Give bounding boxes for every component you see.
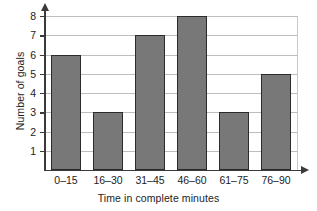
y-axis-tick [40,151,46,152]
y-axis-tick-label: 5 [10,69,36,79]
bar-chart: Number of goals Time in complete minutes… [0,0,317,211]
y-axis-tick [40,93,46,94]
y-axis-tick [40,16,46,17]
gridline [45,112,297,113]
bar [219,112,249,170]
y-axis-arrow-icon [41,3,49,11]
x-axis-tick-label: 31–45 [129,174,171,186]
bar [261,74,291,170]
y-axis-tick [40,112,46,113]
bar [51,55,81,171]
x-axis-line [44,170,303,172]
y-axis-tick-label: 7 [10,30,36,40]
y-axis-tick-label: 8 [10,11,36,21]
y-axis-tick [40,132,46,133]
y-axis-tick [40,35,46,36]
bar [135,35,165,170]
gridline [45,151,297,152]
x-axis-tick-label: 0–15 [45,174,87,186]
y-axis-tick-label: 3 [10,107,36,117]
plot-area [45,16,298,170]
gridline [45,74,297,75]
bar [93,112,123,170]
x-axis-tick-label: 46–60 [171,174,213,186]
y-axis-tick [40,74,46,75]
bar [177,16,207,170]
x-axis-tick-label: 61–75 [213,174,255,186]
x-axis-title: Time in complete minutes [0,192,317,204]
gridline [45,132,297,133]
y-axis-tick-label: 1 [10,146,36,156]
gridline [45,16,297,17]
x-axis-tick-label: 16–30 [87,174,129,186]
y-axis-line [44,10,46,171]
y-axis-tick [40,55,46,56]
gridline [45,55,297,56]
gridline [45,35,297,36]
gridline [45,93,297,94]
x-axis-tick-label: 76–90 [255,174,297,186]
y-axis-tick-label: 6 [10,50,36,60]
y-axis-tick-label: 4 [10,88,36,98]
y-axis-tick-label: 2 [10,127,36,137]
x-axis-arrow-icon [301,166,309,174]
